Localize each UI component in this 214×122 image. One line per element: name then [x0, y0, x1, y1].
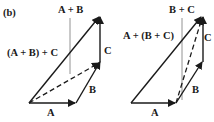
panel-label: (b) [3, 8, 16, 19]
label-sum-left: (A + B) + C [7, 48, 58, 59]
vector-b-right [176, 62, 202, 103]
label-sum-right: A + (B + C) [123, 31, 174, 42]
vector-b-left [76, 62, 100, 103]
label-a-plus-b: A + B [58, 5, 83, 16]
label-c-right: C [204, 33, 212, 44]
vector-addition-diagram [0, 0, 214, 122]
label-a-left: A [47, 108, 55, 119]
label-b-left: B [89, 85, 96, 96]
label-a-right: A [151, 108, 159, 119]
label-c-left: C [104, 46, 112, 57]
label-b-right: B [192, 85, 199, 96]
label-b-plus-c: B + C [169, 5, 195, 16]
